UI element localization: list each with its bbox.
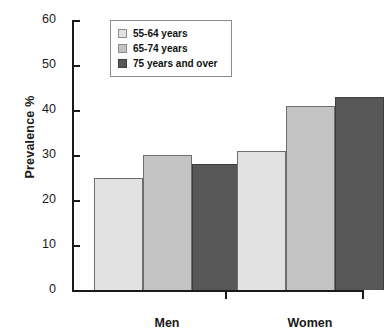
y-tick-label-0: 0 — [16, 282, 56, 296]
legend-label-65-74: 65-74 years — [133, 43, 188, 54]
legend-label-55-64: 55-64 years — [133, 28, 188, 39]
x-group-label-women: Women — [270, 316, 350, 330]
x-axis-line — [72, 290, 364, 292]
y-tick-label-20: 20 — [16, 192, 56, 206]
x-tick-men-end — [225, 292, 227, 299]
y-tick-label-60: 60 — [16, 12, 56, 26]
legend-swatch-icon-65-74 — [118, 44, 127, 53]
bar-women-65-74 — [286, 106, 335, 291]
y-tick-label-40: 40 — [16, 102, 56, 116]
y-tick-label-10: 10 — [16, 237, 56, 251]
bar-men-75-over — [192, 164, 241, 290]
y-tick-label-30: 30 — [16, 147, 56, 161]
bar-men-55-64 — [94, 178, 143, 291]
y-tick-40 — [74, 110, 80, 112]
legend-swatch-icon-55-64 — [118, 29, 127, 38]
legend-label-75-over: 75 years and over — [133, 58, 218, 69]
bar-men-65-74 — [143, 155, 192, 290]
y-tick-0 — [74, 290, 80, 292]
y-tick-label-50: 50 — [16, 57, 56, 71]
y-tick-10 — [74, 245, 80, 247]
y-tick-20 — [74, 200, 80, 202]
chart-legend: 55-64 years 65-74 years 75 years and ove… — [110, 20, 232, 77]
legend-item-55-64: 55-64 years — [118, 26, 225, 41]
bar-women-75-over — [335, 97, 384, 291]
bar-women-55-64 — [237, 151, 286, 291]
legend-swatch-icon-75-over — [118, 59, 127, 68]
y-tick-30 — [74, 155, 80, 157]
x-tick-women-end — [362, 292, 364, 299]
legend-item-75-over: 75 years and over — [118, 56, 225, 71]
y-tick-60 — [74, 20, 80, 22]
legend-item-65-74: 65-74 years — [118, 41, 225, 56]
x-group-label-men: Men — [127, 316, 207, 330]
y-tick-50 — [74, 65, 80, 67]
